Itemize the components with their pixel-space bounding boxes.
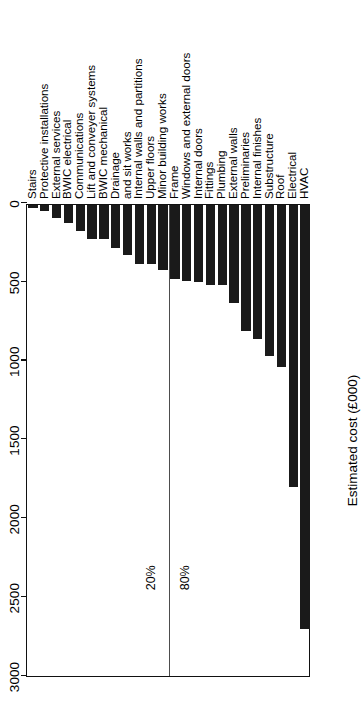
value-axis-tick-label: 0 bbox=[7, 200, 22, 208]
category-label: HVAC bbox=[298, 168, 310, 199]
category-label: Internal walls and partitions bbox=[133, 59, 145, 200]
value-axis-tick-label: 1500 bbox=[7, 425, 22, 455]
pareto-label-lower: 20% bbox=[144, 565, 158, 590]
category-label: Stairs bbox=[26, 169, 38, 199]
pareto-bar-chart: StairsProtective installationsExternal s… bbox=[0, 0, 361, 714]
category-label: BWIC electrical bbox=[62, 120, 74, 199]
category-label: BWIC mechanical bbox=[97, 107, 109, 199]
category-label: Roof bbox=[275, 175, 287, 200]
chart-rotated-canvas: StairsProtective installationsExternal s… bbox=[0, 0, 361, 714]
value-axis-tick-label: 2000 bbox=[7, 504, 22, 534]
pareto-label-upper: 80% bbox=[178, 565, 192, 590]
value-axis-tick-label: 3000 bbox=[7, 662, 22, 692]
value-axis-title: Estimated cost (£000) bbox=[345, 375, 360, 506]
category-label: Fittings bbox=[204, 162, 216, 199]
value-axis-tick-label: 1000 bbox=[7, 346, 22, 376]
category-label: Preliminaries bbox=[239, 132, 251, 199]
category-label: Frame bbox=[168, 166, 180, 200]
category-axis-labels: StairsProtective installationsExternal s… bbox=[0, 0, 361, 714]
value-axis-tick-label: 2500 bbox=[7, 583, 22, 613]
value-axis-tick-label: 500 bbox=[7, 271, 22, 294]
